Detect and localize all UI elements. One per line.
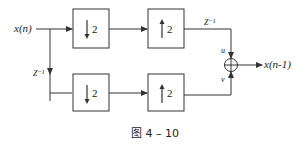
input-label: x(n) [13, 22, 32, 35]
delay-left-label: Z⁻¹ [33, 69, 45, 78]
block-top-upsample: 2 [148, 9, 184, 48]
factor-label: 2 [92, 23, 98, 35]
factor-label: 2 [167, 23, 173, 35]
block-bottom-upsample: 2 [148, 74, 184, 111]
output-label: x(n-1) [263, 58, 291, 71]
block-top-downsample: 2 [73, 9, 109, 48]
factor-label: 2 [167, 87, 173, 99]
factor-label: 2 [92, 87, 98, 99]
adder-input-u: u [221, 46, 225, 55]
delay-top-label: Z⁻¹ [204, 18, 216, 27]
adder-input-v: v [221, 75, 225, 84]
figure-caption: 图 4 – 10 [131, 127, 179, 140]
block-diagram: x(n) Z⁻¹ 2 2 Z⁻¹ u [0, 0, 307, 147]
delay-arrow-icon [47, 68, 53, 75]
sum-circle-icon [225, 59, 238, 72]
block-bottom-downsample: 2 [73, 74, 109, 111]
